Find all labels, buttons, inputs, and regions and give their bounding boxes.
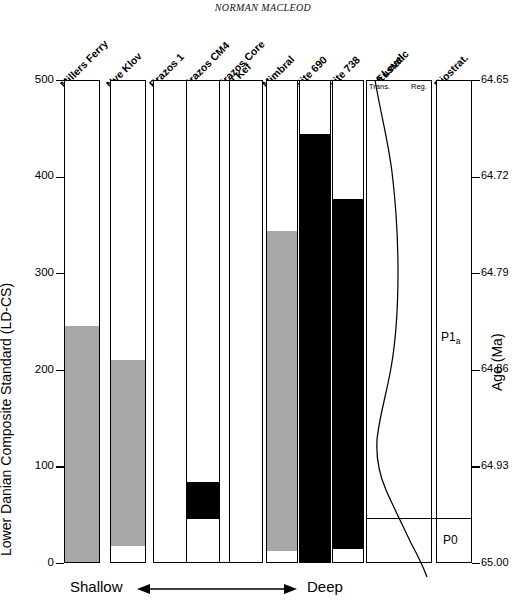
figure-canvas: NORMAN MACLEOD Millers Ferry Nye Klov Br… — [0, 0, 526, 613]
depth-gradient-arrow — [0, 0, 526, 613]
